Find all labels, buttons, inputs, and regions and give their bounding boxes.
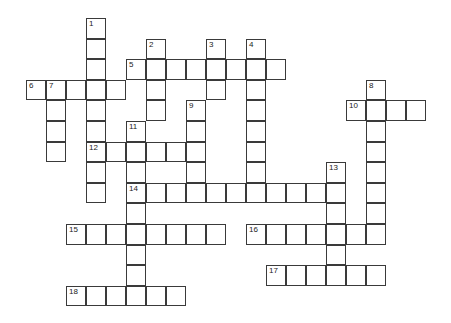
crossword-cell[interactable] (146, 59, 166, 80)
crossword-cell[interactable]: 14 (126, 183, 146, 204)
crossword-cell[interactable] (386, 100, 406, 121)
crossword-cell[interactable] (206, 59, 226, 80)
crossword-cell[interactable] (126, 142, 146, 163)
crossword-cell[interactable]: 1 (86, 18, 106, 39)
crossword-cell[interactable]: 16 (246, 224, 266, 245)
crossword-cell[interactable] (186, 142, 206, 163)
crossword-cell[interactable]: 12 (86, 142, 106, 163)
crossword-cell[interactable] (86, 162, 106, 183)
crossword-cell[interactable] (226, 59, 246, 80)
crossword-cell[interactable]: 11 (126, 121, 146, 142)
crossword-cell[interactable] (366, 162, 386, 183)
crossword-cell[interactable]: 2 (146, 39, 166, 60)
crossword-cell[interactable]: 17 (266, 265, 286, 286)
crossword-cell[interactable]: 18 (66, 286, 86, 307)
crossword-cell[interactable] (366, 142, 386, 163)
crossword-cell[interactable] (326, 265, 346, 286)
crossword-cell[interactable] (86, 100, 106, 121)
crossword-cell[interactable] (246, 100, 266, 121)
crossword-cell[interactable] (46, 100, 66, 121)
crossword-cell[interactable] (246, 162, 266, 183)
crossword-cell[interactable]: 8 (366, 80, 386, 101)
crossword-cell[interactable] (306, 224, 326, 245)
crossword-cell[interactable] (286, 183, 306, 204)
crossword-cell[interactable] (286, 224, 306, 245)
crossword-cell[interactable] (246, 121, 266, 142)
crossword-cell[interactable] (346, 265, 366, 286)
crossword-cell[interactable] (166, 224, 186, 245)
crossword-cell[interactable] (146, 183, 166, 204)
crossword-cell[interactable] (106, 142, 126, 163)
crossword-cell[interactable] (186, 162, 206, 183)
crossword-cell[interactable] (186, 183, 206, 204)
crossword-cell[interactable] (366, 100, 386, 121)
crossword-cell[interactable] (166, 183, 186, 204)
crossword-cell[interactable] (66, 80, 86, 101)
crossword-cell[interactable] (266, 224, 286, 245)
crossword-cell[interactable]: 9 (186, 100, 206, 121)
crossword-cell[interactable] (366, 121, 386, 142)
crossword-cell[interactable] (126, 162, 146, 183)
crossword-cell[interactable] (186, 224, 206, 245)
crossword-cell[interactable] (366, 265, 386, 286)
crossword-cell[interactable] (166, 286, 186, 307)
crossword-cell[interactable] (246, 59, 266, 80)
crossword-cell[interactable]: 3 (206, 39, 226, 60)
crossword-cell[interactable] (246, 142, 266, 163)
crossword-cell[interactable]: 6 (26, 80, 46, 101)
crossword-cell[interactable] (146, 286, 166, 307)
crossword-cell[interactable] (346, 224, 366, 245)
crossword-cell[interactable] (246, 80, 266, 101)
crossword-cell[interactable] (326, 224, 346, 245)
crossword-cell[interactable] (106, 224, 126, 245)
crossword-cell[interactable] (406, 100, 426, 121)
crossword-cell[interactable] (366, 224, 386, 245)
crossword-cell[interactable] (266, 183, 286, 204)
crossword-cell[interactable] (246, 183, 266, 204)
crossword-cell[interactable] (186, 121, 206, 142)
crossword-cell[interactable] (126, 245, 146, 266)
crossword-cell[interactable] (306, 265, 326, 286)
crossword-cell[interactable]: 10 (346, 100, 366, 121)
crossword-cell[interactable] (206, 80, 226, 101)
crossword-cell[interactable] (366, 183, 386, 204)
crossword-cell[interactable] (146, 80, 166, 101)
crossword-cell[interactable] (86, 59, 106, 80)
crossword-cell[interactable] (326, 183, 346, 204)
crossword-cell[interactable] (286, 265, 306, 286)
crossword-cell[interactable] (326, 203, 346, 224)
crossword-cell[interactable] (126, 203, 146, 224)
crossword-cell[interactable] (146, 100, 166, 121)
crossword-cell[interactable] (86, 183, 106, 204)
crossword-cell[interactable] (146, 224, 166, 245)
crossword-cell[interactable] (146, 142, 166, 163)
crossword-cell[interactable] (126, 224, 146, 245)
crossword-cell[interactable] (86, 39, 106, 60)
crossword-cell[interactable] (206, 224, 226, 245)
crossword-cell[interactable] (86, 80, 106, 101)
crossword-cell[interactable] (166, 59, 186, 80)
crossword-cell[interactable] (106, 80, 126, 101)
crossword-cell[interactable]: 15 (66, 224, 86, 245)
crossword-cell[interactable] (86, 121, 106, 142)
crossword-cell[interactable] (106, 286, 126, 307)
crossword-cell[interactable] (226, 183, 246, 204)
crossword-cell[interactable] (86, 286, 106, 307)
crossword-cell[interactable]: 13 (326, 162, 346, 183)
crossword-cell[interactable] (166, 142, 186, 163)
clue-number: 5 (129, 61, 133, 69)
crossword-cell[interactable] (46, 121, 66, 142)
crossword-cell[interactable] (326, 245, 346, 266)
crossword-cell[interactable] (206, 183, 226, 204)
crossword-cell[interactable] (126, 265, 146, 286)
crossword-cell[interactable] (186, 59, 206, 80)
crossword-cell[interactable] (86, 224, 106, 245)
crossword-cell[interactable]: 5 (126, 59, 146, 80)
crossword-cell[interactable] (306, 183, 326, 204)
crossword-cell[interactable] (46, 142, 66, 163)
crossword-cell[interactable] (366, 203, 386, 224)
crossword-cell[interactable]: 7 (46, 80, 66, 101)
crossword-cell[interactable] (126, 286, 146, 307)
crossword-cell[interactable] (266, 59, 286, 80)
crossword-cell[interactable]: 4 (246, 39, 266, 60)
